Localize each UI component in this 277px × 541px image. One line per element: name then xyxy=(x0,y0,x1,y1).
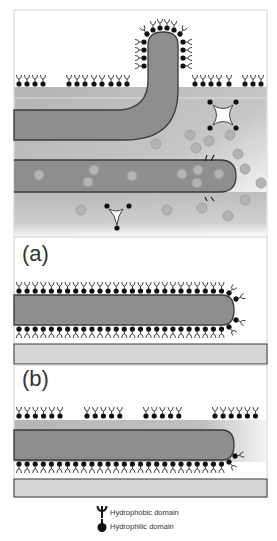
substrate-a xyxy=(14,344,267,364)
panel-a xyxy=(14,237,267,365)
legend-item-hydrophobic: Hydrophobic domain xyxy=(96,505,236,519)
hydrophobic-domain-icon xyxy=(96,505,108,519)
legend-label: Hydrophilic domain xyxy=(110,522,174,531)
legend-label: Hydrophobic domain xyxy=(110,508,179,517)
panel-top xyxy=(14,10,267,237)
membrane-diagram xyxy=(0,0,277,541)
horizontal-tube xyxy=(14,160,236,192)
substrate-b xyxy=(14,479,267,497)
tube-b xyxy=(14,430,234,460)
panel-label-a: (a) xyxy=(22,241,49,267)
legend: Hydrophobic domain Hydrophilic domain xyxy=(96,505,236,533)
hydrophilic-domain-icon xyxy=(96,519,108,533)
panel-label-b: (b) xyxy=(22,366,49,392)
panel-b xyxy=(14,365,267,497)
legend-item-hydrophilic: Hydrophilic domain xyxy=(96,519,236,533)
tube-a xyxy=(14,295,234,325)
